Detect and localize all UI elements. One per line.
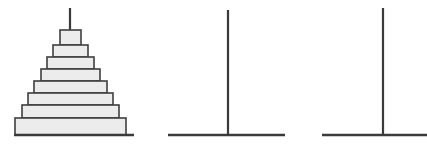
stepped-pyramid-with-pole-tier-3 [28,93,113,105]
stepped-pyramid-with-pole-tier-1-base [15,118,126,135]
stepped-pyramid-with-pole-finial-box [60,30,81,45]
stepped-pyramid-with-pole-tier-7 [53,45,88,57]
stepped-pyramid-with-pole-tier-5 [41,69,100,81]
diagram-svg [0,0,427,147]
stepped-pyramid-with-pole-tier-2 [22,105,119,118]
stepped-pyramid-with-pole-tier-4 [34,81,107,93]
diagram-canvas [0,0,427,147]
stepped-pyramid-with-pole-tier-6 [47,57,94,69]
